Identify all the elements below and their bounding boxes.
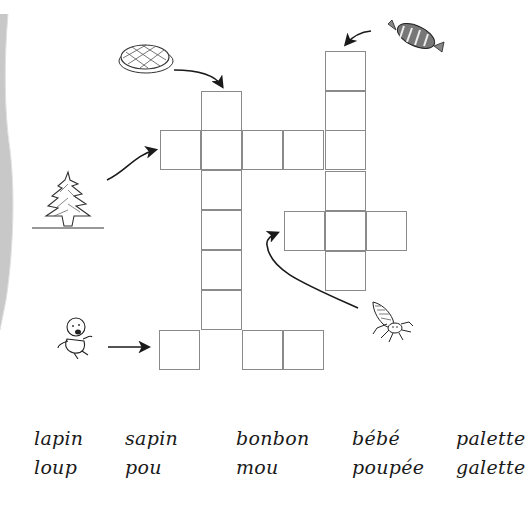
word-bank-item: bébé	[352, 427, 400, 449]
word-bank: lapin sapin bonbon bébé palette loup pou…	[0, 0, 532, 520]
word-bank-item: bonbon	[236, 427, 309, 449]
word-bank-item: poupée	[352, 456, 424, 478]
word-bank-item: galette	[456, 456, 525, 478]
word-bank-item: palette	[456, 427, 525, 449]
word-bank-item: pou	[125, 456, 162, 478]
word-bank-item: lapin	[34, 427, 83, 449]
word-bank-item: mou	[236, 456, 279, 478]
word-bank-item: sapin	[125, 427, 178, 449]
word-bank-item: loup	[34, 456, 77, 478]
